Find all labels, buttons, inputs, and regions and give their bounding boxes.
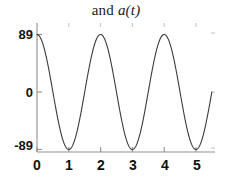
y-axis-ticks [37, 35, 42, 150]
data-series-a-of-t [37, 35, 212, 150]
x-tick-label-3: 3 [124, 157, 142, 173]
y-tick-label-0: 0 [0, 85, 33, 100]
x-tick-label-1: 1 [60, 157, 78, 173]
x-tick-label-4: 4 [156, 157, 174, 173]
x-tick-label-2: 2 [92, 157, 110, 173]
y-tick-label-89: 89 [0, 27, 33, 42]
top-edge-ticks [69, 23, 215, 148]
x-axis-ticks [37, 147, 196, 152]
x-tick-label-5: 5 [188, 157, 206, 173]
x-tick-label-0: 0 [28, 157, 46, 173]
chart-figure: and a(t) [0, 0, 232, 185]
y-tick-label-neg89: -89 [0, 138, 33, 153]
